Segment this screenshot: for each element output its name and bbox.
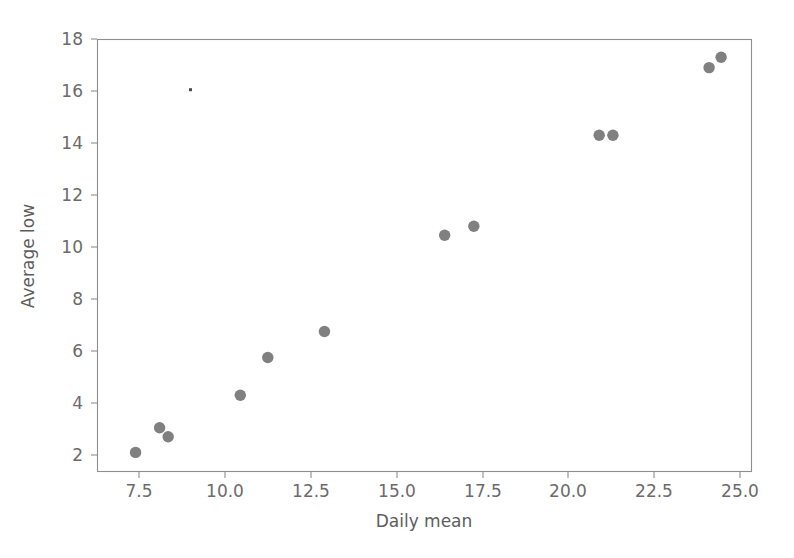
data-point bbox=[154, 422, 165, 433]
y-tick-label: 8 bbox=[72, 289, 83, 309]
x-tick-label: 20.0 bbox=[549, 481, 587, 501]
axes-frame bbox=[98, 40, 752, 472]
data-point bbox=[715, 52, 726, 63]
scatter-plot-canvas: 7.5 10.0 12.5 15.0 17.5 20.0 22.5 25.0 2… bbox=[0, 0, 794, 558]
x-tick-label: 10.0 bbox=[206, 481, 244, 501]
y-tick-label: 14 bbox=[61, 133, 83, 153]
y-tick-label: 10 bbox=[61, 237, 83, 257]
y-axis-label: Average low bbox=[18, 204, 38, 308]
y-tick-marks bbox=[91, 39, 97, 455]
x-axis-label: Daily mean bbox=[376, 511, 473, 531]
y-tick-labels: 2 4 6 8 10 12 14 16 18 bbox=[61, 29, 83, 465]
x-tick-label: 15.0 bbox=[378, 481, 416, 501]
x-tick-label: 22.5 bbox=[635, 481, 673, 501]
y-tick-label: 4 bbox=[72, 393, 83, 413]
x-tick-label: 17.5 bbox=[464, 481, 502, 501]
x-tick-label: 25.0 bbox=[721, 481, 759, 501]
scatter-markers bbox=[130, 52, 727, 459]
x-tick-marks bbox=[139, 472, 740, 478]
data-point bbox=[262, 352, 273, 363]
data-point bbox=[593, 130, 604, 141]
data-point bbox=[703, 62, 714, 73]
x-tick-labels: 7.5 10.0 12.5 15.0 17.5 20.0 22.5 25.0 bbox=[125, 481, 758, 501]
chart-figure: 7.5 10.0 12.5 15.0 17.5 20.0 22.5 25.0 2… bbox=[0, 0, 794, 558]
x-tick-label: 12.5 bbox=[292, 481, 330, 501]
speck-artifact bbox=[189, 88, 192, 91]
data-point bbox=[162, 431, 173, 442]
x-tick-label: 7.5 bbox=[125, 481, 152, 501]
y-tick-label: 6 bbox=[72, 341, 83, 361]
data-point bbox=[130, 447, 141, 458]
data-point bbox=[468, 221, 479, 232]
image-artifacts bbox=[189, 88, 192, 91]
y-tick-label: 16 bbox=[61, 81, 83, 101]
data-point bbox=[319, 326, 330, 337]
data-point bbox=[607, 130, 618, 141]
data-point bbox=[439, 230, 450, 241]
y-tick-label: 18 bbox=[61, 29, 83, 49]
y-tick-label: 2 bbox=[72, 445, 83, 465]
data-point bbox=[235, 390, 246, 401]
y-tick-label: 12 bbox=[61, 185, 83, 205]
